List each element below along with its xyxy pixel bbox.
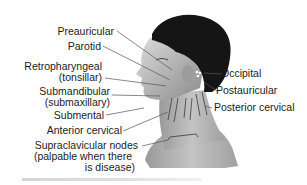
- label-anterior-cervical: Anterior cervical: [20, 125, 122, 136]
- lymph-node-diagram: Preauricular Parotid Retropharyngeal (to…: [0, 0, 307, 185]
- label-preauricular: Preauricular: [54, 26, 114, 37]
- label-posterior-cervical: Posterior cervical: [214, 102, 295, 113]
- label-submandibular-sub: (submaxillary): [18, 97, 110, 108]
- figure-caption-faded: [22, 178, 202, 181]
- label-occipital: Occipital: [221, 68, 261, 79]
- label-parotid: Parotid: [56, 41, 101, 52]
- label-retropharyngeal-sub: (tonsillar): [18, 72, 102, 83]
- label-submental: Submental: [30, 110, 104, 121]
- ear-shape: [182, 65, 194, 83]
- label-supraclavicular-sub2: is disease): [10, 162, 135, 173]
- label-postauricular: Postauricular: [216, 85, 277, 96]
